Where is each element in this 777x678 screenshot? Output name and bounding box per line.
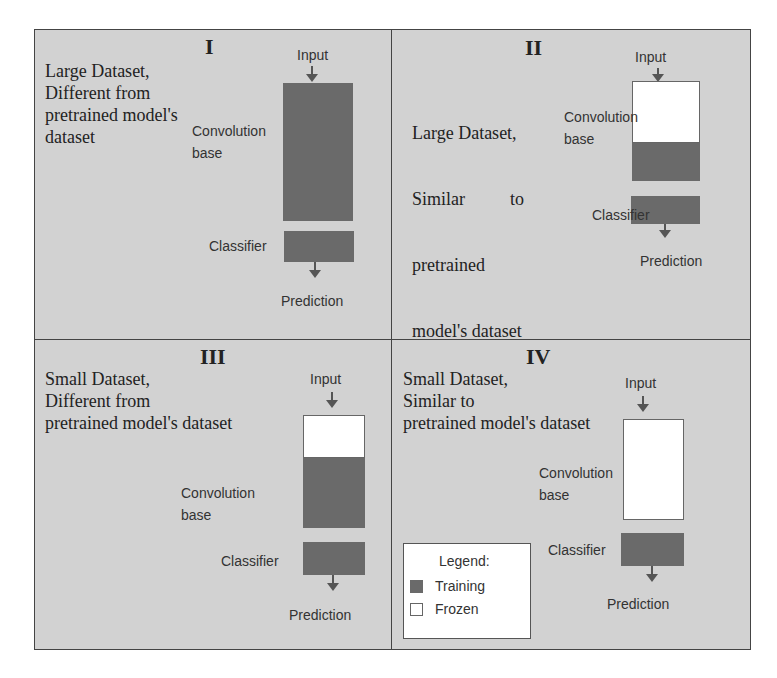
prediction-label: Prediction [289,604,351,626]
description-line: pretrained model's [45,104,178,126]
diagram-frame: I Large Dataset, Different from pretrain… [34,29,751,650]
input-label: Input [625,372,656,394]
input-arrow-icon [657,68,659,76]
conv-label-line: base [181,504,255,526]
conv-base-training-block [632,143,700,181]
quadrant-numeral: II [525,35,542,61]
classifier-label: Classifier [209,235,267,257]
conv-label-line: base [564,128,638,150]
quadrant-numeral: IV [526,344,550,370]
conv-base-frozen-block [303,415,365,458]
quadrant-description: Large Dataset, Different from pretrained… [45,60,178,148]
classifier-label: Classifier [548,539,606,561]
prediction-label: Prediction [281,290,343,312]
description-line: Small Dataset, [45,368,232,390]
description-line: Similar to [403,390,590,412]
prediction-label: Prediction [607,593,669,615]
input-label: Input [635,46,666,68]
input-arrow-icon [331,392,333,402]
output-arrow-icon [664,224,666,232]
output-arrow-icon [314,262,316,272]
description-line: pretrained model's dataset [45,412,232,434]
input-arrow-icon [311,66,313,76]
conv-label-line: Convolution [181,482,255,504]
description-line: Different from [45,82,178,104]
legend-title: Legend: [439,550,490,572]
description-line: model's dataset [412,320,524,342]
classifier-label: Classifier [221,550,279,572]
output-arrow-icon [332,575,334,585]
legend-training-label: Training [435,575,485,597]
conv-base-training-block [283,83,353,221]
legend-frozen-label: Frozen [435,598,479,620]
quadrant-description: Small Dataset, Different from pretrained… [45,368,232,434]
conv-label-line: Convolution [539,462,613,484]
quadrant-2: II Large Dataset, Similar to pretrained … [392,30,750,340]
conv-base-label: Convolution base [539,462,613,506]
input-arrow-icon [642,396,644,406]
legend: Legend: Training Frozen [403,543,531,639]
description-line: pretrained model's dataset [403,412,590,434]
description-line: pretrained [412,254,524,276]
conv-base-frozen-block [623,419,684,520]
training-swatch-icon [410,580,423,593]
input-label: Input [297,44,328,66]
quadrant-1: I Large Dataset, Different from pretrain… [35,30,392,340]
conv-label-line: Convolution [564,106,638,128]
description-line: Different from [45,390,232,412]
conv-label-line: Convolution [192,120,266,142]
conv-base-label: Convolution base [564,106,638,150]
output-arrow-icon [651,566,653,576]
conv-label-line: base [539,484,613,506]
input-label: Input [310,368,341,390]
description-line: Large Dataset, [45,60,178,82]
conv-base-label: Convolution base [181,482,255,526]
classifier-label: Classifier [592,204,650,226]
conv-base-training-block [303,458,365,528]
quadrant-numeral: I [205,34,214,60]
conv-base-label: Convolution base [192,120,266,164]
quadrant-3: III Small Dataset, Different from pretra… [35,340,392,649]
classifier-training-block [621,533,684,566]
quadrant-numeral: III [200,344,226,370]
quadrant-description: Small Dataset, Similar to pretrained mod… [403,368,590,434]
classifier-training-block [303,542,365,575]
conv-label-line: base [192,142,266,164]
description-line: Small Dataset, [403,368,590,390]
classifier-training-block [284,231,354,262]
description-line: Large Dataset, [412,122,524,144]
conv-base-frozen-block [632,81,700,143]
prediction-label: Prediction [640,250,702,272]
frozen-swatch-icon [410,603,423,616]
description-line: Similar to [412,188,524,210]
description-line: dataset [45,126,178,148]
quadrant-4: IV Small Dataset, Similar to pretrained … [392,340,750,649]
